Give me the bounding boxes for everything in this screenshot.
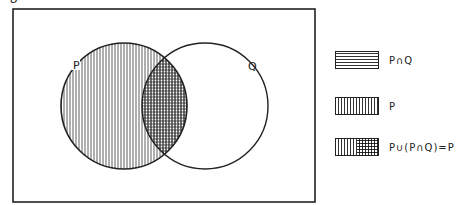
legend-label: P [389,101,396,112]
legend-item-union: P∪(P∩Q)=P [335,136,455,158]
set-p-label: P [73,59,80,72]
legend-item-intersection: P∩Q [335,49,413,71]
set-q-label: Q [248,60,257,73]
vertical-lines-swatch [335,97,379,115]
horizontal-lines-swatch [335,51,379,69]
legend-item-p: P [335,95,396,117]
legend-label: P∩Q [389,55,413,66]
venn-diagram: P Q [0,0,469,205]
combined-pattern-swatch [335,138,379,156]
legend-label: P∪(P∩Q)=P [389,142,455,153]
